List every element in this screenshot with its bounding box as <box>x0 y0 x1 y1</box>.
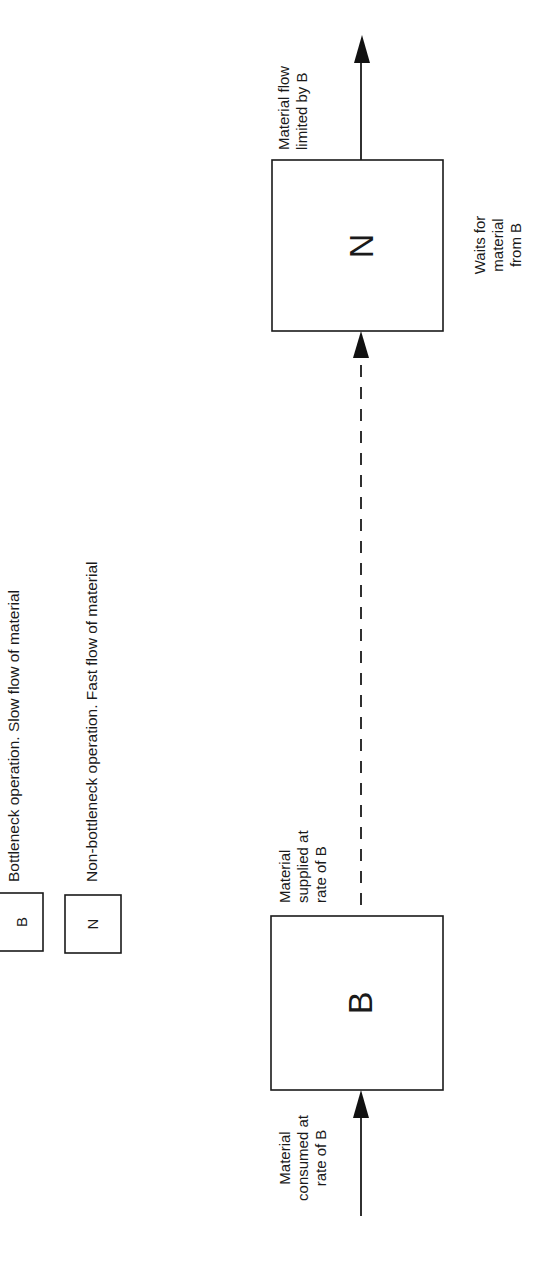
input-arrow <box>353 1090 369 1216</box>
non-bottleneck-label: N <box>342 234 380 259</box>
input-annotation-line-3: rate of B <box>312 1130 329 1187</box>
between-annotation-line-1: Material <box>276 850 293 903</box>
waiting-annotation-line-1: Waits for <box>471 216 488 275</box>
output-annotation-line-2: limited by B <box>293 72 310 150</box>
between-annotation-line-3: rate of B <box>312 846 329 903</box>
bottleneck-node: B <box>271 916 443 1090</box>
dashed-connector <box>353 331 369 905</box>
legend-non-bottleneck-symbol: N <box>84 919 101 930</box>
legend: B Bottleneck operation. Slow flow of mat… <box>0 562 121 954</box>
legend-bottleneck-description: Bottleneck operation. Slow flow of mater… <box>5 590 22 882</box>
legend-bottleneck-symbol: B <box>13 917 30 927</box>
bottleneck-label: B <box>341 992 379 1015</box>
output-arrow <box>354 35 370 160</box>
diagram-canvas: B Bottleneck operation. Slow flow of mat… <box>0 0 540 1285</box>
waiting-annotation-line-2: material <box>489 218 506 271</box>
input-annotation-line-2: consumed at <box>294 1114 311 1201</box>
waiting-annotation: Waits for material from B <box>471 216 524 275</box>
output-annotation: Material flow limited by B <box>275 66 310 150</box>
non-bottleneck-node: N <box>272 160 443 331</box>
waiting-annotation-line-3: from B <box>507 223 524 267</box>
input-annotation-line-1: Material <box>276 1131 293 1184</box>
between-annotation: Material supplied at rate of B <box>276 830 329 903</box>
output-annotation-line-1: Material flow <box>275 66 292 150</box>
arrowhead-icon <box>353 331 369 358</box>
between-annotation-line-2: supplied at <box>294 830 311 903</box>
legend-non-bottleneck-description: Non-bottleneck operation. Fast flow of m… <box>83 562 100 883</box>
arrowhead-icon <box>353 1090 369 1118</box>
arrowhead-icon <box>354 35 370 63</box>
input-annotation: Material consumed at rate of B <box>276 1114 329 1201</box>
